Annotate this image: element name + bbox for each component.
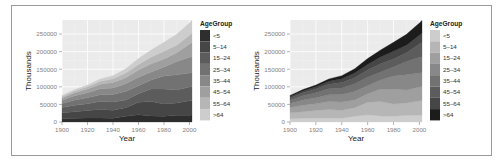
x-axis-title: Year	[348, 134, 365, 143]
legend-label: 15–24	[443, 54, 461, 61]
y-tick-label: 50000	[268, 101, 286, 108]
legend-key	[430, 109, 440, 120]
stacked-area-chart-right: 050000100000150000200000250000Thousands1…	[0, 0, 498, 165]
y-tick-label: 0	[282, 118, 286, 125]
legend-label: <5	[443, 32, 451, 39]
legend: AgeGroup<55–1415–2425–3435–4445–5455–64>…	[430, 20, 462, 120]
legend-key	[430, 41, 440, 52]
y-tick-label: 250000	[264, 30, 285, 37]
legend-label: 55–64	[443, 100, 461, 107]
x-tick-label: 1980	[387, 126, 401, 133]
y-tick-label: 200000	[264, 48, 285, 55]
x-axis: 190019201940196019802000	[283, 122, 427, 133]
y-tick-label: 100000	[264, 83, 285, 90]
legend-key	[430, 30, 440, 41]
x-tick-label: 1900	[283, 126, 297, 133]
legend-label: 5–14	[443, 43, 457, 50]
legend-label: >64	[443, 111, 454, 118]
x-tick-label: 1940	[335, 126, 349, 133]
legend-key	[430, 98, 440, 109]
x-tick-label: 1960	[361, 126, 375, 133]
legend-title: AgeGroup	[430, 20, 462, 28]
y-tick-label: 150000	[264, 66, 285, 73]
legend-label: 45–54	[443, 88, 461, 95]
legend-key	[430, 75, 440, 86]
y-axis: 050000100000150000200000250000	[264, 30, 290, 125]
legend-label: 35–44	[443, 77, 461, 84]
x-tick-label: 1920	[309, 126, 323, 133]
x-tick-label: 2000	[413, 126, 427, 133]
legend-key	[430, 53, 440, 64]
legend-key	[430, 87, 440, 98]
legend-label: 25–34	[443, 66, 461, 73]
y-axis-title: Thousands	[252, 51, 261, 91]
legend-key	[430, 64, 440, 75]
